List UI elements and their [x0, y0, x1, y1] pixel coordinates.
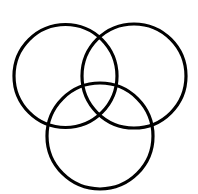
venn-diagram-svg — [0, 0, 198, 194]
venn-diagram — [0, 0, 198, 194]
venn-circle-right — [82, 24, 186, 128]
venn-circle-left — [14, 25, 117, 128]
venn-circle-bottom — [47, 83, 153, 189]
